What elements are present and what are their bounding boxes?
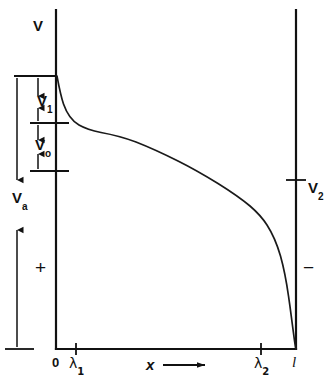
annotation-v1-subscript: 1 [47, 104, 53, 115]
x-tick-label-lambda1: λ1 [69, 356, 84, 374]
annotation-v1: V1 [37, 93, 53, 112]
annotation-v2-base: V [308, 179, 318, 196]
annotation-va: Va [12, 190, 28, 209]
x-tick-label-lambda2: λ2 [254, 356, 269, 374]
annotation-v0-base: V [35, 136, 45, 153]
lambda1-subscript: 1 [77, 366, 84, 377]
annotation-v0: Vo [35, 137, 51, 156]
x-axis-end-label: l [292, 355, 296, 370]
annotation-v2-subscript: 2 [318, 191, 324, 202]
x-axis-origin-label: 0 [52, 356, 59, 369]
potential-curve [57, 76, 296, 349]
annotation-v0-subscript: o [45, 148, 51, 159]
potential-profile-figure: V V1 Vo Va V2 + − 0 λ1 λ2 x l [0, 0, 332, 381]
annotation-va-subscript: a [22, 201, 28, 212]
y-axis-label: V [33, 18, 43, 33]
annotation-va-base: V [12, 189, 22, 206]
polarity-minus-sign: − [303, 258, 314, 277]
annotation-v2: V2 [308, 180, 324, 199]
polarity-plus-sign: + [35, 258, 46, 277]
annotation-v1-base: V [37, 92, 47, 109]
figure-canvas [0, 0, 332, 381]
x-axis-label: x [146, 357, 154, 372]
lambda2-subscript: 2 [262, 366, 269, 377]
